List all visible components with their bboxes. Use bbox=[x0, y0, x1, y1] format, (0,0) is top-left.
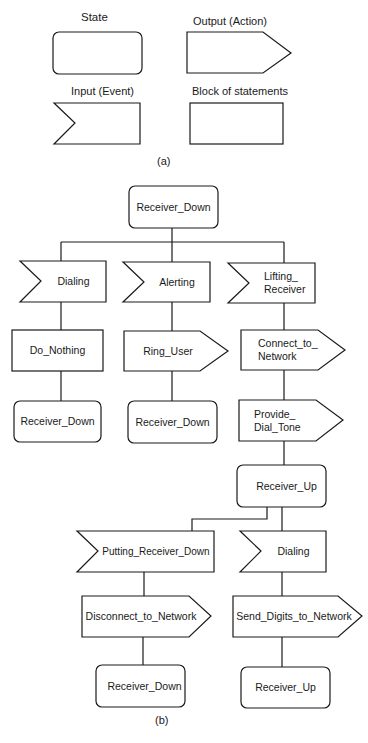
state-receiver-down-1-text: Receiver_Down bbox=[14, 401, 101, 442]
legend-input-shape bbox=[54, 103, 140, 144]
output-disconnect-to-network-text: Disconnect_to_Network bbox=[82, 596, 200, 637]
state-receiver-down-3-text: Receiver_Down bbox=[96, 665, 185, 707]
caption-a: (a) bbox=[157, 155, 170, 167]
output-connect-line2: Network bbox=[258, 350, 297, 363]
output-send-digits-to-network-text: Send_Digits_to_Network bbox=[233, 596, 355, 637]
input-lifting-receiver-line1: Lifting_ bbox=[264, 270, 298, 283]
legend-block-shape bbox=[190, 103, 283, 144]
root-state-text: Receiver_Down bbox=[129, 186, 218, 228]
block-do-nothing-text: Do_Nothing bbox=[12, 330, 103, 371]
input-dialing-2-text: Dialing bbox=[261, 531, 326, 572]
output-provide-dial-tone-text: Provide_ Dial_Tone bbox=[239, 400, 319, 441]
input-lifting-receiver-line2: Receiver bbox=[264, 283, 305, 296]
legend-output-shape bbox=[187, 32, 291, 73]
input-lifting-receiver-text: Lifting_ Receiver bbox=[249, 263, 315, 303]
legend-block-label: Block of statements bbox=[192, 85, 288, 98]
legend-input-label: Input (Event) bbox=[71, 85, 134, 98]
state-receiver-down-2-text: Receiver_Down bbox=[128, 401, 217, 443]
caption-b: (b) bbox=[155, 714, 168, 726]
legend-output-label: Output (Action) bbox=[193, 15, 267, 28]
output-connect-to-network-text: Connect_to_ Network bbox=[241, 330, 321, 370]
output-connect-line1: Connect_to_ bbox=[258, 337, 318, 350]
output-provide-line2: Dial_Tone bbox=[254, 421, 301, 434]
input-putting-receiver-down-text: Putting_Receiver_Down bbox=[98, 531, 214, 572]
state-receiver-up-text: Receiver_Up bbox=[237, 465, 326, 507]
legend-state-label: State bbox=[81, 11, 108, 24]
input-alerting-text: Alerting bbox=[144, 262, 210, 302]
input-dialing-1-text: Dialing bbox=[41, 261, 106, 302]
output-ring-user-text: Ring_User bbox=[124, 331, 212, 371]
output-provide-line1: Provide_ bbox=[254, 408, 295, 421]
state-receiver-up-2-text: Receiver_Up bbox=[241, 667, 330, 708]
legend-state-shape bbox=[53, 32, 142, 74]
